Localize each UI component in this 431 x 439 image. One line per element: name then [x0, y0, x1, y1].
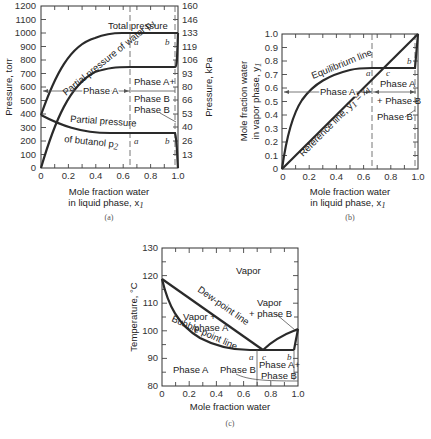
label-phase-ab-1: Phase A+: [134, 76, 175, 87]
label-phase-b: Phase B: [220, 364, 256, 375]
label-butanol-1: Partial pressure: [70, 113, 137, 129]
point-c: c: [386, 68, 390, 78]
svg-text:160: 160: [182, 0, 198, 11]
svg-text:0.4: 0.4: [265, 109, 278, 120]
svg-text:400: 400: [20, 108, 36, 119]
svg-text:0.9: 0.9: [265, 42, 278, 53]
svg-text:0.6: 0.6: [357, 171, 370, 182]
phase-b-boundary: [294, 329, 298, 350]
svg-text:0.6: 0.6: [237, 388, 250, 399]
svg-text:0.5: 0.5: [265, 96, 278, 107]
svg-text:0.1: 0.1: [265, 150, 278, 161]
label-phase-ab-1: Phase A: [380, 78, 416, 89]
label-vapor: Vapor: [236, 265, 261, 276]
svg-text:13: 13: [182, 149, 193, 160]
point-a: a: [249, 352, 254, 362]
point-a: a: [366, 68, 371, 78]
svg-text:0.2: 0.2: [265, 136, 278, 147]
y-axis-right-title-a: Pressure, kPa: [203, 56, 214, 116]
y-axis-title-b-line1: Mole fraction water: [238, 61, 249, 141]
panel-b: 0 0.1 0.2 0.3 0.4 0.5 0.6 0.7 0.8 0.9 1.…: [238, 28, 425, 222]
svg-text:0: 0: [38, 170, 43, 181]
y-tick-labels-c: 80 90 100 110 120 130: [142, 242, 158, 391]
svg-text:110: 110: [143, 297, 158, 308]
y-axis-title-a: Pressure, torr: [3, 58, 14, 116]
x-axis-title-b-line2: in liquid phase, x1: [310, 197, 385, 210]
svg-text:800: 800: [20, 54, 36, 65]
caption-c: (c): [226, 419, 235, 428]
svg-text:0.8: 0.8: [265, 55, 278, 66]
svg-text:100: 100: [20, 149, 36, 160]
svg-text:0.2: 0.2: [62, 170, 75, 181]
svg-text:106: 106: [182, 54, 198, 65]
svg-text:0: 0: [31, 162, 36, 173]
svg-text:120: 120: [142, 270, 158, 281]
svg-text:700: 700: [20, 68, 36, 79]
label-phase-a: Phase A: [320, 86, 356, 97]
x-tick-labels-b: 0 0.2 0.4 0.6 0.8 1.0: [280, 171, 424, 182]
label-vapor-b-1: Vapor: [257, 297, 282, 308]
x-axis-title-b-line1: Mole fraction water: [310, 186, 390, 197]
svg-text:1100: 1100: [16, 14, 36, 25]
svg-text:0.6: 0.6: [265, 82, 278, 93]
svg-text:66: 66: [182, 94, 193, 105]
label-vapor-b-2: + phase B: [249, 308, 292, 319]
svg-text:0.6: 0.6: [117, 170, 130, 181]
svg-text:0.8: 0.8: [264, 388, 277, 399]
svg-text:1.0: 1.0: [265, 28, 278, 39]
caption-a: (a): [105, 213, 114, 222]
svg-text:0.7: 0.7: [265, 69, 278, 80]
svg-text:0.2: 0.2: [183, 388, 196, 399]
svg-text:1000: 1000: [15, 27, 36, 38]
svg-text:300: 300: [20, 122, 36, 133]
panel-c: 80 90 100 110 120 130 0 0.2 0.4 0.6 0.8 …: [128, 242, 305, 428]
svg-text:900: 900: [20, 41, 36, 52]
svg-text:1200: 1200: [15, 0, 36, 11]
label-butanol-2: of butanol p2: [64, 133, 120, 152]
y-axis-title-b-line2: in vapor phase, y1: [250, 63, 263, 140]
svg-text:130: 130: [142, 242, 158, 253]
label-phase-b: Phase B: [134, 104, 170, 115]
svg-text:26: 26: [182, 135, 193, 146]
x-tick-labels-a: 0 0.2 0.4 0.6 0.8 1.0: [38, 170, 184, 181]
svg-text:0.4: 0.4: [210, 388, 223, 399]
svg-text:40: 40: [182, 121, 193, 132]
svg-text:0: 0: [273, 163, 278, 174]
label-equilibrium-line: Equilibrium line: [310, 47, 374, 81]
label-vapor-a-2: phase A: [194, 322, 229, 333]
svg-text:200: 200: [20, 135, 36, 146]
svg-text:119: 119: [182, 41, 197, 52]
svg-text:93: 93: [182, 68, 193, 79]
y-tick-labels-b: 0 0.1 0.2 0.3 0.4 0.5 0.6 0.7 0.8 0.9 1.…: [265, 28, 278, 174]
svg-text:1.0: 1.0: [171, 170, 184, 181]
x-axis-title-a-line1: Mole fraction water: [69, 186, 149, 197]
svg-text:0: 0: [159, 388, 164, 399]
x-tick-labels-c: 0 0.2 0.4 0.6 0.8 1.0: [159, 388, 304, 399]
y-right-tick-labels-a: 13 26 40 53 66 80 93 106 119 133 146 160: [182, 0, 198, 160]
label-phase-a: Phase A: [173, 364, 209, 375]
point-a-lower: a: [134, 136, 139, 146]
svg-text:80: 80: [147, 380, 158, 391]
svg-text:133: 133: [182, 27, 198, 38]
y-axis-title-c: Temperature, °C: [128, 282, 139, 351]
label-phase-a: Phase A: [83, 85, 119, 96]
svg-text:53: 53: [182, 108, 193, 119]
svg-text:0.3: 0.3: [265, 123, 278, 134]
point-b-lower: b: [165, 136, 170, 146]
x-axis-title-a-line2: in liquid phase, x1: [68, 197, 143, 210]
dew-point-line-water: [263, 329, 298, 350]
label-phase-ab-2: + Phase B: [377, 95, 421, 106]
point-c: c: [262, 352, 266, 362]
point-b: b: [287, 352, 292, 362]
point-a-upper: a: [134, 37, 139, 47]
svg-text:0.8: 0.8: [144, 170, 157, 181]
svg-text:0.4: 0.4: [89, 170, 102, 181]
x-axis-title-c: Mole fraction water: [190, 401, 270, 412]
svg-text:146: 146: [182, 14, 198, 25]
label-phase-b: Phase B: [377, 111, 413, 122]
y-tick-labels-a: 0 100 200 300 400 500 600 700 800 900 10…: [15, 0, 36, 173]
svg-text:1.0: 1.0: [291, 388, 304, 399]
svg-text:0.8: 0.8: [384, 171, 397, 182]
svg-text:90: 90: [147, 352, 158, 363]
label-phase-ab-2: Phase B: [261, 370, 297, 381]
